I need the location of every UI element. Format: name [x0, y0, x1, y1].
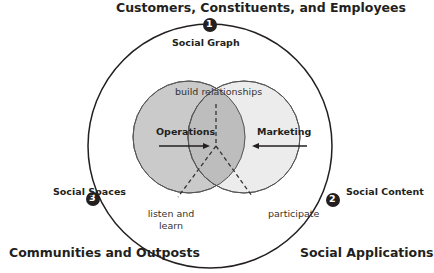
bottom-left-title: Communities and Outposts: [9, 245, 200, 260]
marker-2-number: 2: [329, 193, 336, 204]
participate-annotation: participate: [268, 208, 319, 220]
top-title: Customers, Constituents, and Employees: [116, 0, 406, 15]
social-spaces-label: Social Spaces: [53, 186, 126, 197]
social-content-label: Social Content: [346, 186, 424, 197]
marketing-label: Marketing: [257, 126, 311, 137]
bottom-right-title: Social Applications: [300, 245, 434, 260]
build-relationships-annotation: build relationships: [175, 86, 262, 98]
social-graph-label: Social Graph: [172, 37, 240, 48]
operations-label: Operations: [156, 126, 215, 137]
marker-1-number: 1: [206, 18, 213, 29]
listen-line: listen and: [146, 208, 196, 220]
listen-learn-annotation: listen and learn: [146, 208, 196, 232]
learn-line: learn: [146, 220, 196, 232]
